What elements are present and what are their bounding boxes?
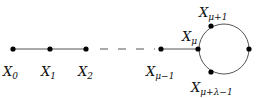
label-X0: X0 — [2, 64, 18, 81]
label-Xmu: Xμ — [181, 29, 197, 46]
label-Xmu+1: Xμ+1 — [198, 5, 227, 22]
label-X2: X2 — [77, 64, 93, 81]
node-Xmu — [195, 46, 200, 51]
node-X0 — [10, 46, 15, 51]
rho-shaped-graph: X0X1X2Xμ−1XμXμ+1Xμ+λ−1 — [0, 0, 258, 98]
node-Xright — [246, 46, 251, 51]
node-Xmu+1 — [208, 23, 213, 28]
cycle-circle — [199, 24, 249, 74]
node-Xmu+lambda-1 — [208, 69, 213, 74]
label-X1: X1 — [40, 64, 56, 81]
label-Xmu+lambda-1: Xμ+λ−1 — [190, 80, 233, 97]
node-X2 — [83, 46, 88, 51]
node-Xmu-1 — [158, 46, 163, 51]
label-Xmu-1: Xμ−1 — [145, 64, 174, 81]
node-X1 — [47, 46, 52, 51]
